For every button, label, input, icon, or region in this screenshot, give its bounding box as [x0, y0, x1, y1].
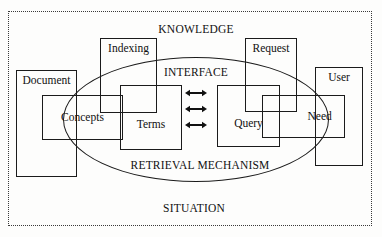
caption-interface: INTERFACE [164, 67, 228, 79]
caption-retrieval-mechanism: RETRIEVAL MECHANISM [131, 160, 270, 172]
double-arrow-icon-1 [185, 89, 207, 98]
box-terms: Terms [120, 85, 182, 150]
caption-knowledge: KNOWLEDGE [158, 24, 233, 36]
box-user: User [315, 67, 363, 166]
box-concepts-label: Concepts [61, 112, 104, 124]
box-request-label: Request [252, 43, 289, 55]
diagram-canvas: Document Concepts Indexing Terms Query R… [0, 0, 382, 237]
double-arrow-icon-2 [185, 105, 207, 114]
caption-situation: SITUATION [163, 203, 225, 215]
double-arrow-icon-3 [185, 121, 207, 130]
box-query-label: Query [234, 119, 263, 131]
box-indexing-label: Indexing [108, 43, 149, 55]
box-user-label: User [328, 72, 350, 84]
box-terms-label: Terms [137, 119, 166, 131]
box-document-label: Document [23, 75, 71, 87]
